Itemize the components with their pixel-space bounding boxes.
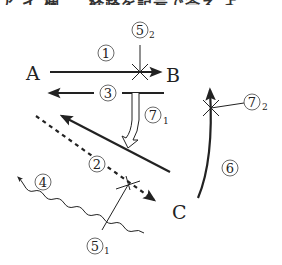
label-7-1: 7 1 [145,107,169,126]
svg-text:2: 2 [149,30,155,40]
svg-text:3: 3 [104,86,112,101]
path-7-1-hollow-arrow [122,93,139,148]
marker-5-2-cross [132,45,148,80]
label-5-1: 5 1 [87,238,110,256]
marker-5-1-cross [102,176,140,230]
svg-text:1: 1 [104,246,110,256]
svg-text:2: 2 [93,157,101,172]
svg-text:5: 5 [136,23,144,38]
marker-7-2-cross [203,100,244,116]
label-7-2: 7 2 [244,94,268,112]
svg-text:2: 2 [262,102,268,112]
svg-text:1: 1 [163,116,169,126]
point-b-label: B [166,64,180,86]
point-c-label: C [172,201,187,223]
point-a-label: A [25,62,40,84]
label-4: 4 [35,174,51,190]
svg-text:6: 6 [226,161,234,176]
label-6: 6 [222,160,238,176]
svg-text:1: 1 [102,46,110,61]
svg-text:5: 5 [91,239,99,254]
label-3: 3 [100,85,116,101]
label-1: 1 [98,45,114,61]
diagonal-arrow-line [62,116,170,172]
svg-text:7: 7 [149,108,157,123]
label-2: 2 [89,156,105,172]
reaction-path-diagram: A B C 1 2 3 4 5 1 5 2 6 7 1 7 2 [0,0,282,265]
svg-text:4: 4 [39,175,47,190]
svg-text:7: 7 [248,95,256,110]
label-5-2: 5 2 [132,22,155,40]
